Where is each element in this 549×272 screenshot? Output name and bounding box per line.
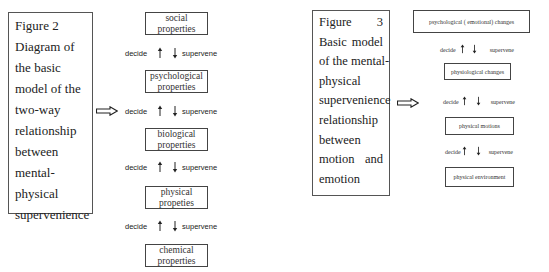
level-box-physical-environment: physical environment	[445, 167, 514, 187]
caption-line: supervenience	[319, 91, 383, 111]
level-label: social	[146, 13, 207, 24]
caption-word: motion	[319, 150, 354, 170]
caption-word: model	[352, 33, 383, 53]
relation-row: decide supervene	[445, 146, 513, 157]
caption-word: and	[365, 150, 383, 170]
decide-label: decide	[440, 47, 456, 53]
caption-line: supervenience	[15, 204, 86, 225]
level-label: properties	[146, 82, 207, 93]
decide-label: decide	[125, 163, 147, 172]
level-label: physical motions	[459, 123, 500, 129]
level-label: psychological	[146, 71, 207, 82]
relation-row: decide supervene	[125, 220, 217, 232]
level-label: physiological changes	[451, 69, 504, 75]
level-box-physical-motions: physical motions	[445, 117, 514, 135]
level-label: properties	[146, 256, 207, 267]
up-arrow-icon	[462, 146, 467, 157]
caption-line: between	[15, 141, 86, 162]
supervene-label: supervene	[489, 149, 513, 155]
caption-line: Figure3	[319, 13, 383, 33]
down-arrow-icon	[172, 161, 178, 173]
level-box-chemical: chemical properties	[145, 244, 208, 267]
relation-row: decide supervene	[125, 161, 217, 173]
level-label: propeties	[146, 198, 207, 209]
down-arrow-icon	[172, 47, 178, 59]
supervene-label: supervene	[490, 47, 514, 53]
level-box-biological: biological properties	[145, 128, 208, 151]
down-arrow-icon	[472, 44, 477, 55]
level-label: psychological ( emotional) changes	[429, 19, 514, 25]
supervene-label: supervene	[182, 163, 217, 172]
relation-row: decide supervene	[443, 96, 515, 107]
caption-line: model of the	[15, 78, 86, 99]
caption-line: Diagram of	[15, 36, 86, 57]
caption-line: of the mental-	[319, 52, 383, 72]
caption-line: between	[319, 131, 383, 151]
caption-word: Figure	[319, 13, 352, 33]
caption-line: Figure 2	[15, 15, 86, 36]
up-arrow-icon	[157, 161, 163, 173]
caption-line: relationship	[319, 111, 383, 131]
up-arrow-icon	[157, 220, 163, 232]
level-box-physiological: physiological changes	[444, 63, 511, 80]
level-box-psychological: psychological properties	[145, 70, 208, 93]
up-arrow-icon	[460, 44, 465, 55]
caption-line: physical	[15, 183, 86, 204]
level-label: properties	[146, 140, 207, 151]
relation-row: decide supervene	[125, 105, 217, 117]
level-label: physical environment	[454, 174, 506, 180]
level-box-social: social properties	[145, 12, 208, 35]
caption-line: emotion	[319, 170, 383, 190]
decide-label: decide	[125, 107, 147, 116]
up-arrow-icon	[157, 47, 163, 59]
level-box-psychological-emotional: psychological ( emotional) changes	[413, 10, 530, 33]
supervene-label: supervene	[182, 222, 217, 231]
supervene-label: supervene	[182, 49, 217, 58]
figure2-caption: Figure 2 Diagram of the basic model of t…	[8, 12, 93, 214]
down-arrow-icon	[476, 146, 481, 157]
level-label: biological	[146, 129, 207, 140]
down-arrow-icon	[476, 96, 481, 107]
caption-line: Basicmodel	[319, 33, 383, 53]
caption-line: two-way	[15, 99, 86, 120]
decide-label: decide	[125, 222, 147, 231]
down-arrow-icon	[172, 105, 178, 117]
up-arrow-icon	[462, 96, 467, 107]
level-box-physical: physical propeties	[145, 186, 208, 209]
decide-label: decide	[125, 49, 147, 58]
supervene-label: supervene	[491, 99, 515, 105]
level-label: chemical	[146, 245, 207, 256]
double-right-arrow-icon	[96, 106, 118, 116]
level-label: physical	[146, 187, 207, 198]
caption-line: relationship	[15, 120, 86, 141]
caption-line: motionand	[319, 150, 383, 170]
double-right-arrow-icon	[397, 98, 419, 108]
caption-line: mental-	[15, 162, 86, 183]
level-label: properties	[146, 24, 207, 35]
caption-word: Basic	[319, 33, 347, 53]
relation-row: decide supervene	[125, 47, 217, 59]
up-arrow-icon	[157, 105, 163, 117]
supervene-label: supervene	[182, 107, 217, 116]
caption-line: physical	[319, 72, 383, 92]
decide-label: decide	[443, 99, 459, 105]
down-arrow-icon	[172, 220, 178, 232]
caption-line: the basic	[15, 57, 86, 78]
caption-word: 3	[377, 13, 383, 33]
relation-row: decide supervene	[440, 44, 514, 55]
figure3-caption: Figure3 Basicmodel of the mental- physic…	[312, 10, 390, 196]
decide-label: decide	[445, 149, 461, 155]
